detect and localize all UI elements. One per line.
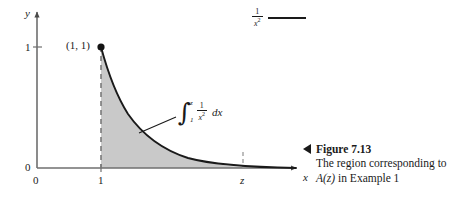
point-marker-1-1	[97, 43, 104, 50]
figure-container: y x 1 0 0 1 z (1, 1) ∫ z 1 1 x2 dx 1 x2 …	[0, 0, 467, 200]
legend: 1 x2	[251, 8, 306, 28]
caption-math-term: A(z)	[316, 172, 335, 184]
integral-expression: ∫ z 1 1 x2 dx	[178, 100, 222, 124]
caption-title: Figure 7.13	[316, 142, 371, 156]
integral-leader-line	[139, 117, 176, 133]
caption-heading: Figure 7.13	[303, 142, 467, 156]
x-tick-label-1: 1	[98, 175, 104, 186]
figure-caption: Figure 7.13 The region corresponding to …	[303, 142, 467, 185]
legend-numerator: 1	[253, 8, 261, 16]
caption-line-1: The region corresponding to	[316, 156, 467, 170]
integrand-denominator: x2	[197, 111, 208, 122]
integrand-denominator-exponent: 2	[202, 111, 205, 117]
x-tick-label-z: z	[240, 175, 244, 186]
caption-line-2-rest: in Example 1	[335, 172, 399, 184]
caption-line-2: A(z) in Example 1	[316, 171, 467, 185]
x-tick-label-0: 0	[33, 175, 39, 186]
integrand-fraction: 1 x2	[197, 102, 208, 122]
integral-sign-icon: ∫	[178, 103, 191, 123]
y-axis-label: y	[25, 8, 30, 19]
integrand-numerator: 1	[198, 102, 206, 110]
differential-dx: dx	[212, 107, 222, 118]
y-tick-label-0: 0	[25, 162, 31, 173]
left-triangle-icon	[303, 144, 311, 154]
legend-line-swatch	[268, 17, 306, 19]
legend-denominator-exponent: 2	[258, 17, 261, 23]
point-coordinate-label: (1, 1)	[66, 40, 90, 51]
legend-denominator: x2	[252, 17, 263, 28]
legend-fraction: 1 x2	[252, 8, 263, 28]
y-tick-label-1: 1	[25, 42, 31, 53]
